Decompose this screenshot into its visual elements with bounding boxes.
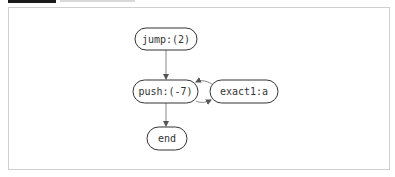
node-end[interactable]: end: [147, 127, 187, 150]
node-exact1-label: exact1:a: [220, 86, 268, 97]
node-end-label: end: [158, 133, 176, 144]
node-push[interactable]: push:(-7): [133, 80, 198, 103]
edge-push-exact1: [196, 100, 211, 102]
flowchart-canvas: jump:(2) push:(-7) exact1:a end: [0, 0, 395, 177]
node-jump-label: jump:(2): [142, 34, 190, 45]
edge-exact1-push: [196, 81, 212, 84]
node-push-label: push:(-7): [138, 86, 192, 97]
node-exact1[interactable]: exact1:a: [210, 80, 278, 103]
node-jump[interactable]: jump:(2): [135, 28, 197, 50]
